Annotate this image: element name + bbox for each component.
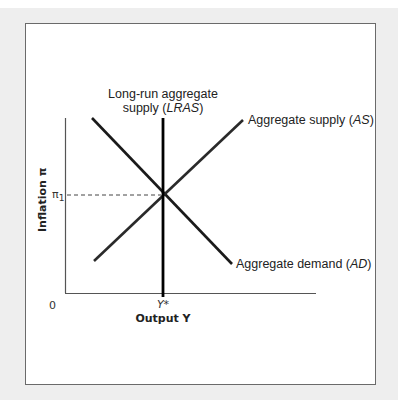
y-axis-label: Inflation π — [36, 167, 49, 232]
y-tick-pi1: π1 — [52, 188, 64, 203]
lras-label-line2: supply (LRAS) — [123, 101, 204, 115]
as-curve — [94, 120, 243, 261]
x-axis-label: Output Y — [135, 312, 191, 325]
lras-label-line1: Long-run aggregate — [108, 87, 218, 101]
origin-label: 0 — [49, 299, 56, 312]
ad-label: Aggregate demand (AD) — [236, 257, 372, 271]
ad-as-diagram: Long-run aggregate supply (LRAS) Aggrega… — [0, 0, 398, 409]
as-label: Aggregate supply (AS) — [248, 113, 374, 127]
x-tick-ystar: Y* — [157, 298, 170, 311]
